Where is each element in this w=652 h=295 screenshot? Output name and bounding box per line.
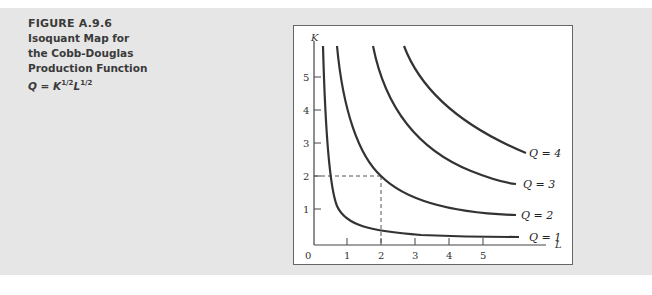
isoquant-q2 bbox=[337, 46, 516, 215]
y-axis-label: K bbox=[310, 32, 319, 43]
isoquant-q3 bbox=[373, 46, 516, 184]
label-q3: Q = 3 bbox=[523, 178, 555, 191]
origin-label: 0 bbox=[305, 250, 311, 261]
y-tick-label-5: 5 bbox=[303, 72, 309, 83]
isoquant-q4 bbox=[404, 46, 526, 153]
x-tick-label-2: 2 bbox=[378, 250, 384, 261]
y-tick-label-4: 4 bbox=[303, 105, 309, 116]
caption-line-3: Production Function bbox=[28, 61, 147, 76]
chart-plot-area: 1 2 3 4 5 1 2 3 4 5 0 K L Q = 1 Q = 2 Q … bbox=[293, 25, 573, 265]
isoquant-q1 bbox=[323, 46, 519, 237]
x-tick-label-5: 5 bbox=[480, 250, 486, 261]
dashed-guide-2-2 bbox=[314, 176, 381, 245]
label-q2: Q = 2 bbox=[521, 209, 553, 222]
figure-caption: FIGURE A.9.6 Isoquant Map for the Cobb-D… bbox=[28, 16, 147, 94]
label-q1: Q = 1 bbox=[529, 231, 561, 244]
caption-line-2: the Cobb-Douglas bbox=[28, 46, 147, 61]
isoquant-chart: 1 2 3 4 5 1 2 3 4 5 0 K L Q = 1 Q = 2 Q … bbox=[294, 26, 572, 264]
isoquant-curves bbox=[323, 46, 526, 237]
y-tick-label-3: 3 bbox=[303, 138, 309, 149]
caption-formula: Q = K1/2L1/2 bbox=[28, 76, 147, 94]
label-q4: Q = 4 bbox=[529, 147, 561, 160]
y-tick-label-1: 1 bbox=[303, 204, 309, 215]
caption-line-1: Isoquant Map for bbox=[28, 31, 147, 46]
y-ticks bbox=[314, 77, 321, 209]
x-tick-label-4: 4 bbox=[446, 250, 452, 261]
x-tick-label-1: 1 bbox=[344, 250, 350, 261]
y-tick-label-2: 2 bbox=[303, 171, 309, 182]
figure-number: FIGURE A.9.6 bbox=[28, 16, 147, 31]
x-ticks bbox=[347, 238, 483, 245]
x-tick-label-3: 3 bbox=[412, 250, 418, 261]
